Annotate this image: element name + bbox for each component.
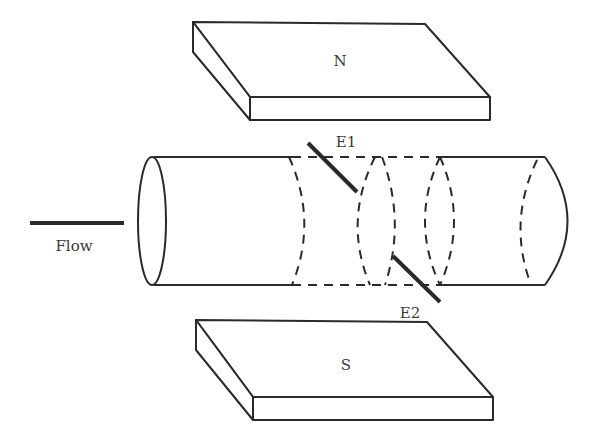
south-label: S [341,356,351,374]
north-magnet [193,22,490,120]
electrode-e1-label: E1 [336,133,357,151]
electrode-e2-label: E2 [400,304,421,322]
pipe [138,157,568,285]
electrode-e2 [393,256,440,302]
flow-label: Flow [55,237,92,255]
flowmeter-diagram: N S E1 E2 Flow [0,0,596,446]
north-label: N [333,52,346,70]
